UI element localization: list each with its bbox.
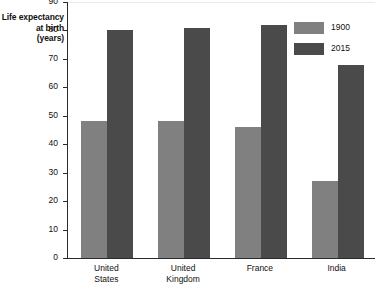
y-tick-mark — [63, 59, 67, 60]
y-tick-30: 30 — [0, 173, 67, 174]
y-tick-mark — [63, 116, 67, 117]
y-tick-label: 40 — [49, 138, 58, 149]
x-label-line: Kingdom — [145, 274, 222, 285]
x-label-line: India — [298, 263, 375, 274]
y-tick-0: 0 — [0, 258, 67, 259]
y-tick-label: 50 — [49, 110, 58, 121]
y-tick-label: 20 — [49, 195, 58, 206]
y-tick-mark — [63, 144, 67, 145]
bar-1900-india — [312, 181, 338, 258]
bar-2015-france — [261, 25, 287, 258]
y-tick-label: 80 — [49, 24, 58, 35]
y-tick-label: 0 — [53, 252, 58, 263]
bar-2015-united-states — [107, 30, 133, 258]
x-axis-line — [67, 258, 375, 259]
x-label-line: United — [68, 263, 145, 274]
legend-item-2015: 2015 — [294, 41, 380, 56]
y-tick-20: 20 — [0, 201, 67, 202]
y-tick-label: 60 — [49, 81, 58, 92]
legend-label-1900: 1900 — [331, 22, 350, 33]
y-tick-90: 90 — [0, 2, 67, 3]
x-label-line: States — [68, 274, 145, 285]
bar-2015-india — [338, 65, 364, 258]
bar-1900-united-states — [81, 121, 107, 258]
y-tick-label: 10 — [49, 224, 58, 235]
bar-1900-united-kingdom — [158, 121, 184, 258]
y-tick-50: 50 — [0, 116, 67, 117]
legend-item-1900: 1900 — [294, 20, 380, 35]
bar-group-france — [235, 2, 287, 258]
chart-legend: 1900 2015 — [294, 20, 380, 62]
y-tick-mark — [63, 201, 67, 202]
y-tick-mark — [63, 173, 67, 174]
y-tick-mark — [63, 230, 67, 231]
y-tick-10: 10 — [0, 230, 67, 231]
bar-1900-france — [235, 127, 261, 258]
legend-label-2015: 2015 — [331, 43, 350, 54]
bar-group-united-kingdom — [158, 2, 210, 258]
x-label-line: United — [145, 263, 222, 274]
x-label-line: France — [222, 263, 299, 274]
legend-swatch-1900 — [294, 22, 324, 34]
y-tick-mark — [63, 2, 67, 3]
bar-2015-united-kingdom — [184, 28, 210, 258]
y-tick-70: 70 — [0, 59, 67, 60]
y-tick-label: 70 — [49, 53, 58, 64]
life-expectancy-bar-chart: Life expectancy at birth (years) 0102030… — [0, 0, 388, 302]
y-tick-mark — [63, 258, 67, 259]
x-label-united-states: UnitedStates — [68, 263, 145, 285]
y-tick-label: 90 — [49, 0, 58, 7]
y-tick-mark — [63, 30, 67, 31]
y-tick-80: 80 — [0, 30, 67, 31]
y-tick-mark — [63, 87, 67, 88]
x-label-united-kingdom: UnitedKingdom — [145, 263, 222, 285]
bar-group-united-states — [81, 2, 133, 258]
x-label-india: India — [298, 263, 375, 274]
y-tick-label: 30 — [49, 167, 58, 178]
y-tick-60: 60 — [0, 87, 67, 88]
x-label-france: France — [222, 263, 299, 274]
legend-swatch-2015 — [294, 43, 324, 55]
y-axis-title-line-1: Life expectancy — [0, 12, 64, 23]
y-tick-40: 40 — [0, 144, 67, 145]
